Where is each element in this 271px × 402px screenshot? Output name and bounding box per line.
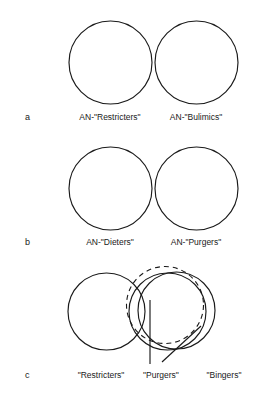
panel-b-circle-1 (69, 147, 152, 230)
circle-label-an-bulimics: AN-"Bulimics" (170, 113, 222, 122)
circle-label-an-restricters: AN-"Restricters" (79, 113, 140, 122)
panel-letter-c: c (25, 371, 30, 380)
circle-label-bingers: "Bingers" (207, 371, 242, 380)
panel-a-circle-1 (69, 21, 152, 104)
circle-label-purgers: "Purgers" (143, 371, 179, 380)
panel-letter-b: b (25, 238, 30, 247)
panel-a-circle-2 (155, 21, 238, 104)
panel-letter-a: a (25, 113, 30, 122)
panel-c-circle-1 (68, 273, 145, 350)
figure-canvas (0, 0, 271, 402)
panel-c-circle-2 (129, 273, 206, 350)
circle-label-an-purgers: AN-"Purgers" (171, 238, 221, 247)
venn-diagram-figure: a b c AN-"Restricters" AN-"Bulimics" AN-… (0, 0, 271, 402)
circle-label-an-dieters: AN-"Dieters" (86, 238, 134, 247)
circle-label-restricters: "Restricters" (78, 371, 125, 380)
panel-b-circle-2 (155, 147, 238, 230)
